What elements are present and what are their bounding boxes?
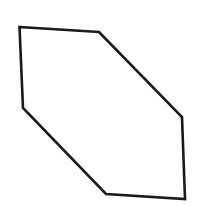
hexagon-outline: [20, 27, 186, 199]
diagram-canvas: [0, 0, 199, 206]
hexagon-figure: [0, 0, 199, 206]
